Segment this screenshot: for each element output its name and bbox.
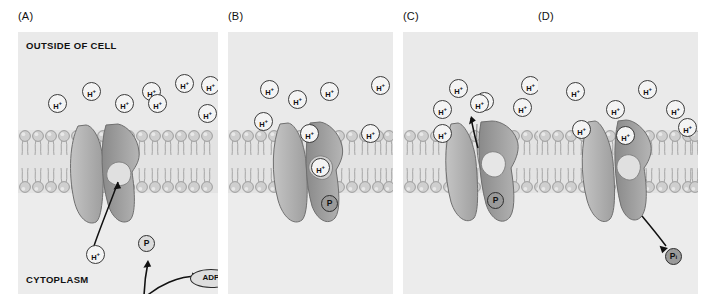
proton-ion: H+ [82,82,101,101]
proton-ion: H+ [513,98,532,117]
cell-diagram-d: H+ H+ H+ H+ H+ H+ H+ Pi [538,32,698,294]
proton-ion: H+ [254,112,273,131]
proton-ion: H+ [678,118,697,137]
proton-ion: H+ [606,100,625,119]
proton-ion: H+ [320,82,339,101]
phosphate-badge: P [487,192,504,209]
proton-ion: H+ [638,80,657,99]
panel-label-c: (C) [403,10,419,22]
cytoplasmic-proton-ion: H+ [86,245,105,264]
phosphate-badge: P [138,235,155,252]
proton-ion: H+ [572,120,591,139]
proton-ion: H+ [175,74,194,93]
proton-ion: H+ [198,104,217,123]
cytoplasm-space-b [228,193,393,294]
phosphate-badge: P [321,195,338,212]
proton-ion: H+ [449,79,468,98]
proton-ion: H+ [616,126,635,145]
proton-ion: H+ [371,76,390,95]
proton-ion: H+ [666,100,685,119]
proton-ion: H+ [433,100,452,119]
phosphate-released-badge: Pi [665,248,682,265]
proton-ion: H+ [288,90,307,109]
proton-ion: H+ [115,94,134,113]
proton-ion: H+ [361,124,380,143]
panel-a: OUTSIDE OF CELL CYTOPLASM [18,32,218,294]
proton-ion: H+ [566,82,585,101]
proton-ion: H+ [433,124,452,143]
lipid-bilayer-a [18,130,218,193]
cell-diagram-a: OUTSIDE OF CELL CYTOPLASM [18,32,218,294]
panel-b: H+ H+ H+ H+ H+ H+ H+ H+ P [228,32,393,294]
panel-d: H+ H+ H+ H+ H+ H+ H+ Pi [538,32,698,294]
released-proton-ion: H+ [470,94,489,113]
extracellular-space-b [228,32,393,130]
bound-proton-ion: H+ [311,158,330,177]
proton-ion: H+ [201,76,218,95]
proton-ion: H+ [300,124,319,143]
cytoplasm-label: CYTOPLASM [26,274,89,285]
panel-label-a: (A) [18,10,33,22]
panel-label-d: (D) [538,10,554,22]
proton-ion: H+ [148,94,167,113]
proton-ion: H+ [260,80,279,99]
outside-of-cell-label: OUTSIDE OF CELL [26,40,117,51]
proton-ion: H+ [48,94,67,113]
cell-diagram-b: H+ H+ H+ H+ H+ H+ H+ H+ P [228,32,393,294]
cytoplasm-space-d [538,193,698,294]
panel-label-b: (B) [228,10,243,22]
